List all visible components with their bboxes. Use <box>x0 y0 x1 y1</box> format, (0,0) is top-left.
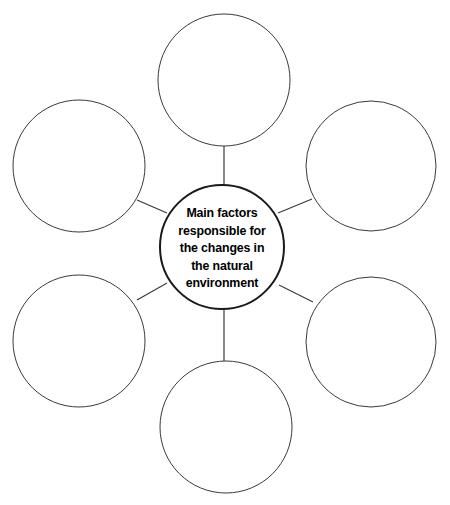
node-top-right[interactable] <box>306 101 436 231</box>
connector-center-to-top-left <box>137 200 167 213</box>
mind-map-diagram: Main factors responsible for the changes… <box>0 0 450 505</box>
node-top[interactable] <box>158 14 290 146</box>
node-top-left[interactable] <box>13 100 145 232</box>
node-bottom-right[interactable] <box>306 277 436 407</box>
main-topic-circle[interactable] <box>160 185 284 309</box>
connector-center-to-top-right <box>278 199 312 213</box>
connector-center-to-bottom-left <box>137 283 167 300</box>
diagram-canvas <box>0 0 450 505</box>
node-bottom-left[interactable] <box>13 275 145 407</box>
connector-center-to-bottom-right <box>279 285 313 302</box>
node-bottom[interactable] <box>160 361 292 493</box>
